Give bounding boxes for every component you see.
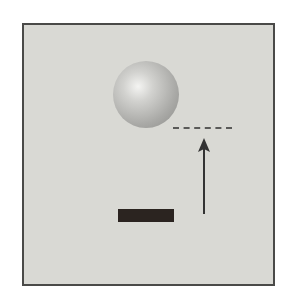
sphere bbox=[113, 61, 179, 128]
dark-bar bbox=[118, 209, 174, 222]
dashed-reference-line bbox=[173, 127, 232, 129]
up-arrow-icon bbox=[196, 136, 212, 216]
